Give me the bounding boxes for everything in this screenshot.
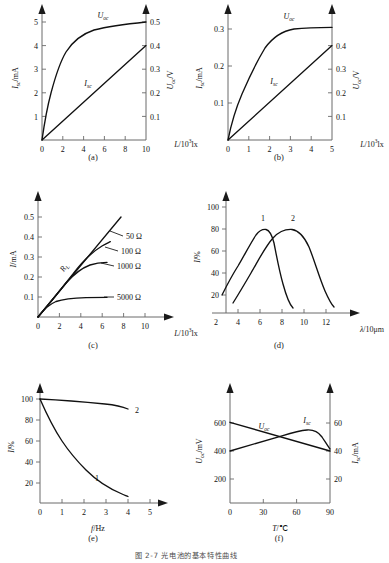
panel-e-curve-2 <box>40 399 128 409</box>
panel-b-ytick: 0.3 <box>214 25 224 34</box>
panel-b-series-label-isc: Isc <box>269 77 278 87</box>
panel-a-curve-isc <box>42 46 146 140</box>
panel-c-ytick: 0.2 <box>24 273 34 282</box>
panel-d-ytick: 100 <box>207 203 219 212</box>
panel-c-series-label-1000: 1000 Ω <box>117 262 141 271</box>
panel-a: 1 2 3 4 5 0.1 0.2 0.3 0.4 0.5 <box>0 0 186 152</box>
panel-f-ylabel-right: Isc/mA <box>351 442 361 465</box>
panel-a-ytick: 1 <box>34 113 38 122</box>
panel-b-ylabel-right: Uoc/V <box>352 70 362 89</box>
panel-f-xtick: 0 <box>228 508 232 517</box>
panel-b: 0.1 0.2 0.3 0.1 0.2 0.3 0.4 <box>186 0 372 152</box>
panel-c-sublabel: (c) <box>0 340 186 350</box>
panel-a-ytick: 5 <box>34 18 38 27</box>
panel-b-ytick: 0.2 <box>214 62 224 71</box>
panel-a-curve-uoc <box>42 22 146 140</box>
panel-c-ytick: 0.4 <box>24 233 34 242</box>
panel-c-series-label-50: 50 Ω <box>126 232 142 241</box>
panel-a-ytick: 2 <box>34 89 38 98</box>
panel-f-ytick: 400 <box>214 447 226 456</box>
panel-b-ytick-right: 0.1 <box>336 113 346 122</box>
panel-e-xtick: 4 <box>126 508 130 517</box>
panel-b-xlabel: L/103lx <box>186 138 389 149</box>
panel-f-ytick-right: 40 <box>334 447 342 456</box>
panel-a-ytick-right: 0.2 <box>150 89 160 98</box>
panel-a-ytick: 3 <box>34 65 38 74</box>
panel-b-ylabel: Isc/mA <box>195 67 205 90</box>
panel-c-ytick: 0.1 <box>24 293 34 302</box>
panel-f-ylabel: Uoc/mV <box>195 438 205 464</box>
panel-f-xlabel: T/℃ <box>272 524 288 533</box>
panel-c-series-label-5000: 5000 Ω <box>117 293 141 302</box>
panel-b-sublabel: (b) <box>186 152 372 162</box>
panel-c: 0.1 0.2 0.3 0.4 0.5 0 2 4 6 8 10 <box>0 185 186 340</box>
panel-b-ytick: 0.1 <box>214 99 224 108</box>
panel-e-ytick: 40 <box>25 458 33 467</box>
panel-a-ytick-right: 0.5 <box>150 18 160 27</box>
panel-a-ytick-right: 0.4 <box>150 42 160 51</box>
panel-c-series-label-100: 100 Ω <box>121 247 141 256</box>
panel-d-ytick: 60 <box>211 247 219 256</box>
panel-f-ytick: 600 <box>214 419 226 428</box>
panel-f-ytick-right: 20 <box>334 475 342 484</box>
panel-e-xtick: 5 <box>148 508 152 517</box>
panel-d-curve-1 <box>222 229 293 308</box>
panel-a-ytick-right: 0.3 <box>150 65 160 74</box>
panel-a-ylabel-right: Uoc/V <box>166 70 176 89</box>
panel-e-xtick: 2 <box>82 508 86 517</box>
panel-a-ytick-right: 0.1 <box>150 113 160 122</box>
panel-e: 20 40 60 80 100 0 1 2 3 4 5 <box>0 375 186 533</box>
panel-b-ytick-right: 0.3 <box>336 65 346 74</box>
panel-e-xlabel: f/Hz <box>91 524 105 533</box>
panel-f-series-label-uoc: Uoc <box>258 422 270 432</box>
panel-d-ylabel: I/% <box>193 251 202 264</box>
panel-d-ytick: 80 <box>211 225 219 234</box>
panel-f-xtick: 60 <box>293 508 301 517</box>
panel-e-ylabel: I/% <box>7 441 16 454</box>
panel-c-curve-5000 <box>38 297 107 317</box>
panel-d-ytick: 40 <box>211 269 219 278</box>
panel-f-sublabel: (f) <box>186 533 372 543</box>
panel-d: 20 40 60 80 100 2 4 6 8 10 12 <box>186 185 372 340</box>
panel-e-series-label-2: 2 <box>135 406 139 415</box>
panel-e-xtick: 3 <box>104 508 108 517</box>
panel-e-xtick: 1 <box>60 508 64 517</box>
panel-e-xtick: 0 <box>38 508 42 517</box>
panel-b-series-label-uoc: Uoc <box>283 12 295 22</box>
panel-f-ytick: 200 <box>214 475 226 484</box>
panel-c-ylabel: I/mA <box>9 250 18 268</box>
panel-c-curve-1000 <box>38 262 107 317</box>
panel-a-sublabel: (a) <box>0 152 186 162</box>
panel-b-curve-isc <box>228 46 332 140</box>
panel-f: 200 400 600 20 40 60 0 30 60 <box>186 375 372 533</box>
panel-d-series-label-1: 1 <box>261 214 265 223</box>
panel-e-ytick: 80 <box>25 416 33 425</box>
panel-d-xlabel: λ/10μm <box>186 325 389 334</box>
panel-a-ytick: 4 <box>34 42 38 51</box>
panel-d-sublabel: (d) <box>186 340 372 350</box>
panel-d-ytick: 20 <box>211 291 219 300</box>
panel-b-ytick-right: 0.2 <box>336 89 346 98</box>
panel-e-sublabel: (e) <box>0 533 186 543</box>
panel-f-xtick: 30 <box>259 508 267 517</box>
panel-f-xtick: 90 <box>326 508 334 517</box>
panel-d-curve-2 <box>233 229 334 307</box>
panel-b-curve-uoc <box>228 27 332 140</box>
panel-a-series-label-uoc: Uoc <box>97 11 109 21</box>
panel-a-series-label-isc: Isc <box>83 79 92 89</box>
panel-c-annotation-rl: RL <box>57 262 70 275</box>
panel-e-ytick: 100 <box>21 395 33 404</box>
panel-e-curve-1 <box>40 399 128 497</box>
figure-caption: 图 2-7 光电池的基本特性曲线 <box>0 550 372 560</box>
panel-d-series-label-2: 2 <box>291 214 295 223</box>
panel-f-series-label-isc: Isc <box>302 416 311 426</box>
panel-f-ytick-right: 60 <box>334 419 342 428</box>
panel-c-ytick: 0.5 <box>24 213 34 222</box>
panel-e-ytick: 60 <box>25 437 33 446</box>
panel-b-ytick-right: 0.4 <box>336 42 346 51</box>
panel-e-ytick: 20 <box>25 479 33 488</box>
panel-f-curve-isc <box>230 430 330 451</box>
panel-c-ytick: 0.3 <box>24 253 34 262</box>
panel-e-series-label-1: 1 <box>95 474 99 483</box>
